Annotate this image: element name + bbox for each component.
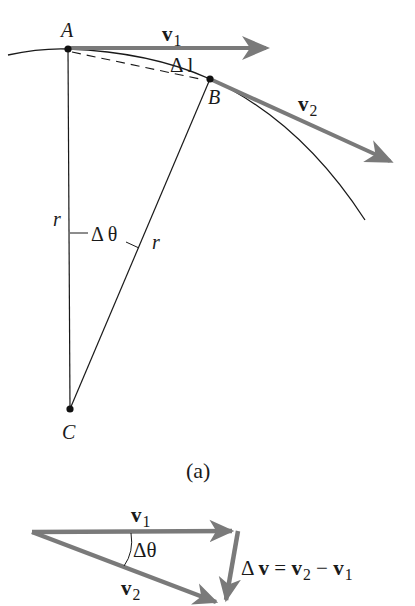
triangle-v1-subscript: 1 — [143, 513, 151, 530]
delta-l-text: Δ l — [170, 53, 193, 77]
eq-v2-symbol: v — [291, 556, 302, 580]
triangle-v2-symbol: v — [121, 576, 132, 600]
equals-sign: = — [269, 556, 291, 580]
v1-subscript: 1 — [174, 32, 182, 49]
delta-symbol: Δ — [241, 556, 259, 580]
eq-v1-symbol: v — [333, 556, 344, 580]
v2-symbol: v — [298, 92, 309, 116]
triangle-v1-label: v1 — [131, 505, 150, 526]
radius-right-label: r — [152, 232, 160, 252]
v2-subscript: 2 — [310, 102, 318, 119]
point-b-label: B — [208, 87, 220, 107]
point-c-label: C — [62, 422, 75, 442]
figure-a-caption: (a) — [186, 460, 210, 482]
centripetal-acceleration-figure: A B C v1 v2 Δ l r r Δ θ (a) v1 v2 Δθ Δ v… — [0, 0, 415, 606]
triangle-angle-label: Δθ — [133, 540, 157, 561]
v1-symbol: v — [162, 22, 173, 46]
triangle-v1-arrow — [32, 531, 232, 532]
radius-ca-line — [68, 49, 70, 409]
minus-sign: − — [311, 556, 333, 580]
radius-left-label: r — [53, 209, 61, 229]
eq-v2-subscript: 2 — [303, 566, 311, 583]
arc-length-label: Δ l — [170, 55, 193, 76]
triangle-v2-label: v2 — [121, 578, 140, 599]
triangle-angle-arc — [124, 533, 132, 566]
delta-v-symbol: v — [259, 556, 270, 580]
triangle-delta-v-arrow — [226, 531, 238, 600]
angle-tick-right — [126, 242, 139, 248]
angle-delta-theta-label: Δ θ — [91, 224, 117, 244]
point-c-dot — [66, 405, 73, 412]
triangle-v2-subscript: 2 — [133, 586, 141, 603]
point-a-label: A — [61, 20, 73, 40]
point-a-dot — [64, 45, 71, 52]
point-b-dot — [206, 75, 213, 82]
v1-label: v1 — [162, 24, 181, 45]
triangle-v1-symbol: v — [131, 503, 142, 527]
v2-label: v2 — [298, 94, 317, 115]
delta-v-equation: Δ v = v2 − v1 — [241, 558, 353, 579]
eq-v1-subscript: 1 — [345, 566, 353, 583]
